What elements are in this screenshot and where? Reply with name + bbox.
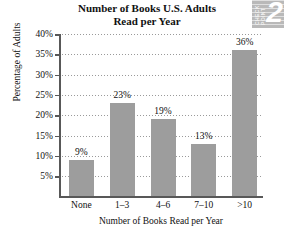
y-tick-mark: [55, 54, 60, 56]
y-tick-mark: [55, 75, 60, 77]
y-tick-label: 10%: [36, 151, 53, 161]
x-tick-label: None: [71, 200, 92, 210]
chart-title-line-1: Number of Books U.S. Adults: [78, 2, 216, 14]
bar: [69, 160, 94, 197]
bar: [151, 119, 176, 196]
badge-label-group: CHECK POINT: [255, 3, 266, 25]
chart-title-line-2: Read per Year: [52, 15, 242, 28]
y-tick-label: 20%: [36, 110, 53, 120]
bar: [232, 50, 257, 196]
x-tick-label: >10: [237, 200, 252, 210]
y-tick-mark: [55, 95, 60, 97]
x-tick-label: 7–10: [194, 200, 213, 210]
y-tick-mark: [55, 156, 60, 158]
y-tick-label: 5%: [40, 171, 53, 181]
bar-value-label: 19%: [154, 106, 171, 116]
y-tick-mark: [55, 176, 60, 178]
badge-number: 2: [266, 0, 283, 27]
y-tick-label: 35%: [36, 49, 53, 59]
y-tick-label: 15%: [36, 131, 53, 141]
bar: [110, 103, 135, 196]
bar-value-label: 13%: [195, 131, 212, 141]
y-tick-label: 25%: [36, 90, 53, 100]
x-tick-label: 1–3: [115, 200, 129, 210]
bar-value-label: 23%: [113, 90, 130, 100]
x-axis-line: [59, 196, 263, 198]
y-tick-label: 40%: [36, 29, 53, 39]
y-tick-mark: [55, 115, 60, 117]
check-point-badge: CHECK POINT 2: [252, 0, 284, 28]
x-tick-label: 4–6: [156, 200, 170, 210]
y-tick-label: 30%: [36, 70, 53, 80]
chart-title: Number of Books U.S. Adults Read per Yea…: [52, 2, 242, 27]
y-tick-mark: [55, 136, 60, 138]
gridline: [59, 34, 263, 35]
bar-value-label: 9%: [75, 147, 88, 157]
x-axis-title: Number of Books Read per Year: [59, 216, 263, 226]
y-axis-title: Percentage of Adults: [12, 0, 22, 127]
chart-figure: Number of Books U.S. Adults Read per Yea…: [0, 0, 284, 238]
plot-area: 5%10%15%20%25%30%35%40% 9%23%19%13%36% N…: [59, 34, 263, 198]
bar: [191, 144, 216, 197]
y-tick-mark: [55, 34, 60, 36]
bar-value-label: 36%: [236, 37, 253, 47]
